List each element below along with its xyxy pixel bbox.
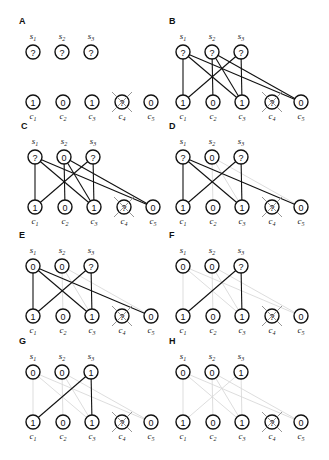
c5-label: c5 xyxy=(148,325,155,336)
c4-label: c4 xyxy=(269,325,276,336)
edge-s2-c3 xyxy=(62,266,92,316)
c5-label: c5 xyxy=(298,325,305,336)
c2-label: c2 xyxy=(62,216,69,227)
variable-node-s3: 1 xyxy=(234,365,248,379)
clause-node-c2: 0 xyxy=(56,95,70,109)
node-value: 0 xyxy=(298,203,303,213)
s3-label: s3 xyxy=(88,245,95,256)
node-value: 0 xyxy=(298,418,303,428)
c4-label: c4 xyxy=(269,216,276,227)
node-value: 1 xyxy=(30,98,35,108)
clause-node-c1: 1 xyxy=(176,309,190,323)
clause-node-c1: 1 xyxy=(26,415,40,429)
panel-label: D xyxy=(169,121,176,131)
s2-label: s2 xyxy=(209,31,216,42)
s3-label: s3 xyxy=(238,245,245,256)
panel-label: A xyxy=(19,16,26,26)
edge-s2-c5 xyxy=(64,157,153,207)
s1-label: s1 xyxy=(30,31,37,42)
clause-node-c4: ? xyxy=(112,306,132,326)
node-value: 1 xyxy=(180,98,185,108)
edge-s2-c3 xyxy=(64,157,94,207)
c3-label: c3 xyxy=(239,216,246,227)
clause-node-c2: 0 xyxy=(206,95,220,109)
edge-s2-c5 xyxy=(212,372,301,422)
panel-c: Cs1?s20s3?1c10c21c3?c40c5 xyxy=(21,121,160,227)
s2-label: s2 xyxy=(209,136,216,147)
node-value: 0 xyxy=(148,312,153,322)
clause-node-c3: 1 xyxy=(235,309,249,323)
c4-label: c4 xyxy=(269,431,276,442)
s1-label: s1 xyxy=(30,351,37,362)
c1-label: c1 xyxy=(180,431,187,442)
bipartite-graph-figure: As1?s2?s3?1c10c21c3?c40c5Bs1?s2?s3?1c10c… xyxy=(0,0,329,460)
s3-label: s3 xyxy=(88,351,95,362)
clause-node-c1: 1 xyxy=(176,200,190,214)
edge-s2-c5 xyxy=(62,266,151,316)
s3-label: s3 xyxy=(88,31,95,42)
c2-label: c2 xyxy=(210,431,217,442)
panel-label: B xyxy=(169,16,176,26)
clause-node-c4: ? xyxy=(262,197,282,217)
clause-node-c5: 0 xyxy=(144,309,158,323)
clause-node-c5: 0 xyxy=(294,95,308,109)
edge-s2-c3 xyxy=(212,266,242,316)
edge-s2-c5 xyxy=(212,157,301,207)
node-value: 0 xyxy=(59,368,64,378)
clause-node-c2: 0 xyxy=(56,309,70,323)
variable-node-s3: ? xyxy=(84,259,98,273)
variable-node-s2: 0 xyxy=(55,365,69,379)
clause-node-c3: 1 xyxy=(87,200,101,214)
node-value: 1 xyxy=(88,368,93,378)
s1-label: s1 xyxy=(180,136,187,147)
node-value: 0 xyxy=(209,262,214,272)
edge-s2-c5 xyxy=(62,372,151,422)
c5-label: c5 xyxy=(150,216,157,227)
c4-label: c4 xyxy=(119,431,126,442)
node-value: 1 xyxy=(32,203,37,213)
c1-label: c1 xyxy=(30,431,37,442)
variable-node-s1: 0 xyxy=(176,365,190,379)
variable-node-s3: ? xyxy=(234,45,248,59)
node-value: 1 xyxy=(30,418,35,428)
node-value: 1 xyxy=(180,418,185,428)
c5-label: c5 xyxy=(298,431,305,442)
clause-node-c1: 1 xyxy=(176,415,190,429)
node-value: ? xyxy=(32,153,37,163)
node-value: 0 xyxy=(210,98,215,108)
edge-s2-c3 xyxy=(212,372,242,422)
node-value: ? xyxy=(88,262,93,272)
variable-node-s3: ? xyxy=(84,45,98,59)
node-value: 0 xyxy=(298,98,303,108)
variable-node-s1: 0 xyxy=(26,365,40,379)
c3-label: c3 xyxy=(89,431,96,442)
node-value: 0 xyxy=(209,153,214,163)
c1-label: c1 xyxy=(180,216,187,227)
variable-node-s3: ? xyxy=(234,259,248,273)
clause-node-c3: 1 xyxy=(235,415,249,429)
clause-node-c3: 1 xyxy=(85,415,99,429)
node-value: 0 xyxy=(30,368,35,378)
variable-node-s2: 0 xyxy=(55,259,69,273)
node-value: 1 xyxy=(89,418,94,428)
node-value: 1 xyxy=(180,203,185,213)
edge-s2-c3 xyxy=(212,157,242,207)
variable-node-s3: ? xyxy=(234,150,248,164)
node-value: ? xyxy=(180,48,185,58)
panel-label: H xyxy=(169,336,176,346)
clause-node-c4: ? xyxy=(262,92,282,112)
node-value: 1 xyxy=(30,312,35,322)
c1-label: c1 xyxy=(180,325,187,336)
c1-label: c1 xyxy=(30,111,37,122)
node-value: 0 xyxy=(209,368,214,378)
variable-node-s1: 0 xyxy=(26,259,40,273)
clause-node-c2: 0 xyxy=(206,200,220,214)
variable-node-s1: 0 xyxy=(176,259,190,273)
node-value: 0 xyxy=(210,312,215,322)
variable-node-s3: 1 xyxy=(84,365,98,379)
panel-a: As1?s2?s3?1c10c21c3?c40c5 xyxy=(19,16,158,122)
s1-label: s1 xyxy=(180,245,187,256)
clause-node-c4: ? xyxy=(262,412,282,432)
node-value: 0 xyxy=(150,203,155,213)
node-value: 0 xyxy=(60,418,65,428)
